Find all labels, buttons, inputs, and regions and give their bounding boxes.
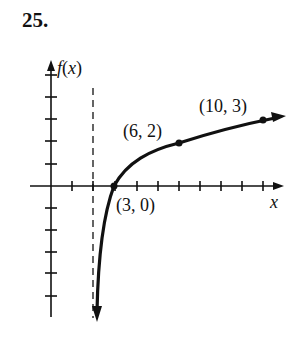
curve-start-arrow-icon [92,306,102,322]
function-curve [97,118,275,312]
y-axis-arrow-icon [47,60,55,71]
point-label-6-2: (6, 2) [123,121,162,142]
point-10-3 [260,117,267,124]
y-axis [45,60,57,317]
curve-end-arrow-icon [271,112,286,122]
y-axis-label: f(x) [57,58,82,79]
x-axis-label: x [269,192,278,212]
point-3-0 [111,183,118,190]
x-axis-arrow-icon [273,182,284,190]
point-label-10-3: (10, 3) [199,96,247,117]
graph: f(x) x (3, 0) (6, 2) (10, 3) [0,0,300,344]
point-label-3-0: (3, 0) [116,195,155,216]
point-6-2 [176,140,183,147]
x-axis [30,181,284,191]
